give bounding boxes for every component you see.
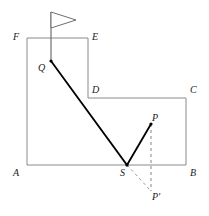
light-ray-polyline (51, 61, 151, 165)
label-point-p: P (152, 113, 158, 123)
flag-pennant-triangle (51, 12, 76, 28)
label-vertex-d: D (92, 85, 99, 95)
label-vertex-a: A (13, 168, 19, 178)
point-dot-q (49, 59, 52, 62)
label-vertex-b: B (190, 168, 196, 178)
ray-path-group (51, 61, 151, 165)
geometry-figure: FEDCBAQSPP' (0, 0, 209, 216)
label-point-s: S (120, 168, 125, 178)
point-dot-s (125, 163, 128, 166)
dashed-line-s-to-p-prime (127, 165, 151, 191)
label-point-p-prime: P' (152, 192, 160, 202)
flag-group (51, 12, 76, 61)
figure-canvas (0, 0, 209, 216)
label-point-q: Q (38, 63, 45, 73)
vertex-dots-group (49, 59, 152, 166)
label-vertex-f: F (13, 32, 19, 42)
label-vertex-e: E (92, 32, 98, 42)
label-vertex-c: C (190, 85, 197, 95)
